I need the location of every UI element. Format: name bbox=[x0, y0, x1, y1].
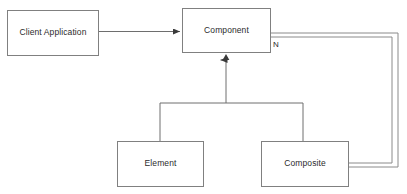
node-element[interactable]: Element bbox=[117, 141, 204, 187]
node-client-application[interactable]: Client Application bbox=[7, 10, 99, 56]
diagram-canvas: Client Application Component Element Com… bbox=[0, 0, 407, 194]
edge-inheritance-tree bbox=[160, 54, 303, 141]
node-element-label: Element bbox=[145, 159, 177, 168]
node-composite-label: Composite bbox=[284, 159, 326, 168]
node-component[interactable]: Component bbox=[182, 8, 271, 53]
node-component-label: Component bbox=[204, 26, 249, 35]
multiplicity-label-n: N bbox=[273, 40, 279, 49]
node-composite[interactable]: Composite bbox=[261, 141, 349, 187]
node-client-application-label: Client Application bbox=[19, 28, 86, 37]
